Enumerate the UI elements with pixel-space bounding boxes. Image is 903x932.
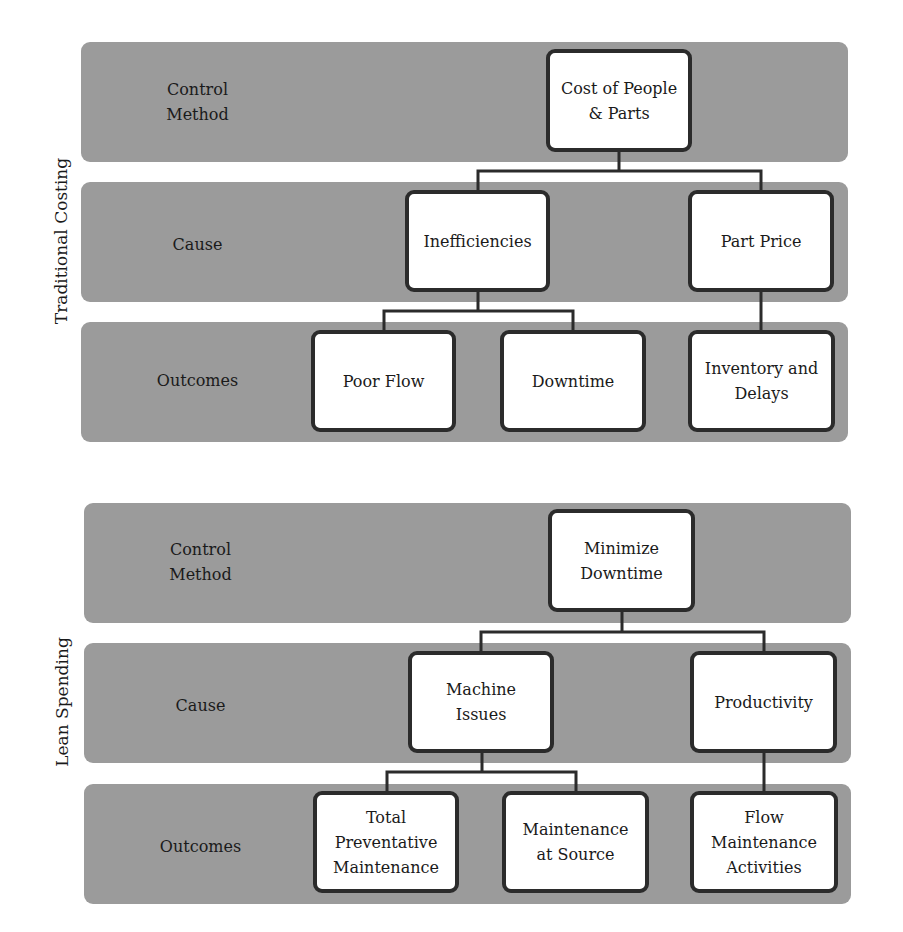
- node-outcome-1: Poor Flow: [311, 330, 456, 432]
- node-cause-right: Productivity: [690, 651, 837, 753]
- diagram-lean-spending: Lean Spending Control Method Cause Outco…: [0, 460, 903, 900]
- side-label: Traditional Costing: [51, 158, 71, 324]
- node-outcome-2: Maintenance at Source: [502, 791, 649, 893]
- band-label-cause: Cause: [140, 232, 255, 257]
- node-control: Minimize Downtime: [548, 509, 695, 612]
- band-label-cause: Cause: [143, 693, 258, 718]
- node-outcome-3: Inventory and Delays: [688, 330, 835, 432]
- node-cause-left: Inefficiencies: [405, 190, 550, 292]
- band-label-outcomes: Outcomes: [143, 834, 258, 859]
- band-label-outcomes: Outcomes: [140, 368, 255, 393]
- diagram-traditional-costing: Traditional Costing Control Method Cause…: [0, 0, 903, 440]
- node-outcome-2: Downtime: [500, 330, 646, 432]
- side-label: Lean Spending: [52, 637, 72, 767]
- node-outcome-1: Total Preventative Maintenance: [313, 791, 459, 893]
- band-label-control-method: Control Method: [140, 77, 255, 127]
- node-control: Cost of People & Parts: [546, 49, 692, 152]
- band-label-control-method: Control Method: [143, 537, 258, 587]
- node-cause-left: Machine Issues: [408, 651, 554, 753]
- node-outcome-3: Flow Maintenance Activities: [690, 791, 838, 893]
- node-cause-right: Part Price: [688, 190, 834, 292]
